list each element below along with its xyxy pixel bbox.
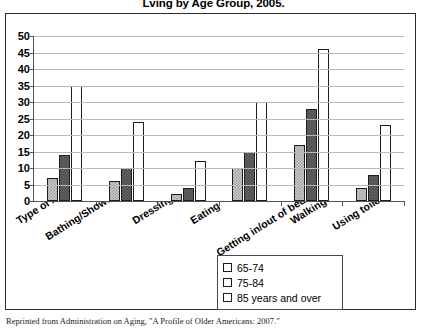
legend-label-75-84: 75-84 (237, 277, 264, 289)
y-tick-label: 45 (18, 47, 30, 58)
gridline (34, 102, 404, 103)
y-tick-mark (30, 119, 34, 120)
chart-title: Lving by Age Group, 2005. (0, 0, 427, 11)
x-axis-labels: Type of ADLBathing/ShoweringDressingEati… (6, 202, 417, 297)
x-label-eating: Eating (188, 202, 222, 226)
bar (171, 194, 182, 201)
source-note: Reprinted from Administration on Aging, … (6, 316, 421, 326)
legend-label-65-74: 65-74 (237, 262, 264, 274)
y-tick-label: 50 (18, 31, 30, 42)
y-tick-mark (30, 36, 34, 37)
bar (59, 155, 70, 201)
gridline (34, 152, 404, 153)
y-tick-label: 30 (18, 97, 30, 108)
gridline (34, 86, 404, 87)
legend-item: 75-84 (223, 275, 337, 290)
y-tick-mark (30, 185, 34, 186)
y-tick-mark (30, 135, 34, 136)
bar (133, 122, 144, 201)
x-label-dressing: Dressing (130, 202, 174, 226)
y-tick-label: 35 (18, 80, 30, 91)
chart-frame: 50454035302520151050 Type of ADLBathing/… (5, 13, 416, 310)
bar (368, 175, 379, 201)
gridline (34, 36, 404, 37)
bar (318, 49, 329, 201)
gridline (34, 119, 404, 120)
legend: 65-74 75-84 85 years and over (217, 255, 343, 310)
y-tick-mark (30, 152, 34, 153)
bar (306, 109, 317, 201)
y-tick-mark (30, 53, 34, 54)
y-tick-label: 15 (18, 146, 30, 157)
legend-swatch-75-84 (223, 278, 232, 287)
legend-swatch-65-74 (223, 263, 232, 272)
bar (47, 178, 58, 201)
y-tick-label: 10 (18, 163, 30, 174)
gridline (34, 69, 404, 70)
legend-swatch-85-plus (223, 293, 232, 302)
gridline (34, 135, 404, 136)
bar (183, 188, 194, 201)
x-label-bathing: Bathing/Showering (43, 202, 130, 242)
gridline (34, 185, 404, 186)
y-tick-mark (30, 69, 34, 70)
y-tick-mark (30, 102, 34, 103)
y-tick-label: 40 (18, 64, 30, 75)
y-tick-label: 25 (18, 113, 30, 124)
gridline (34, 168, 404, 169)
gridline (34, 53, 404, 54)
plot-area: 50454035302520151050 (33, 36, 403, 201)
y-tick-mark (30, 86, 34, 87)
y-tick-label: 20 (18, 130, 30, 141)
bar (380, 125, 391, 201)
legend-item: 65-74 (223, 260, 337, 275)
x-label-toilet: Using toilet (330, 202, 385, 232)
plot-grid (33, 36, 403, 201)
bar (244, 152, 255, 202)
legend-item: 85 years and over (223, 290, 337, 305)
bar (356, 188, 367, 201)
y-tick-mark (30, 168, 34, 169)
bar (294, 145, 305, 201)
y-axis-labels: 50454035302520151050 (8, 36, 30, 201)
legend-label-85-plus: 85 years and over (237, 292, 321, 304)
